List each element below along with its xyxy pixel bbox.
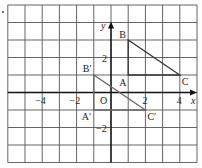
point-label: C′	[147, 111, 156, 122]
x-tick-label: −4	[35, 95, 46, 106]
point-label: B	[119, 29, 126, 40]
x-tick-label: −2	[70, 95, 81, 106]
point-label: A′	[82, 111, 91, 122]
origin-label: O	[100, 95, 107, 106]
point-label: B′	[83, 63, 92, 74]
point-label: A	[119, 77, 127, 88]
y-tick-label: −2	[96, 123, 107, 134]
margin-dot	[2, 11, 4, 13]
point-label: C	[182, 76, 189, 87]
y-tick-label: 2	[102, 53, 107, 64]
coordinate-grid: −4−2242−2OxyABCA′B′C′	[0, 0, 202, 168]
x-tick-label: 4	[177, 95, 182, 106]
x-tick-label: 2	[142, 95, 147, 106]
x-axis-label: x	[190, 95, 196, 106]
axes	[8, 22, 197, 163]
y-axis-label: y	[100, 20, 106, 31]
